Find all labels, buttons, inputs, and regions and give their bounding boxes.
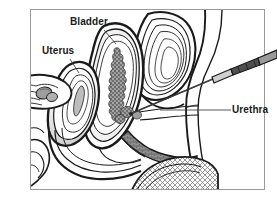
anatomy-illustration	[0, 0, 277, 198]
urethra	[139, 106, 199, 120]
illustration-page: Bladder Uterus Urethra	[0, 0, 277, 198]
pubic-bone	[132, 157, 218, 190]
label-uterus: Uterus	[42, 45, 74, 56]
label-urethra: Urethra	[232, 104, 268, 115]
label-bladder: Bladder	[70, 16, 108, 27]
ovary-adnexa	[12, 75, 72, 109]
lower-left-tissue	[31, 128, 49, 186]
